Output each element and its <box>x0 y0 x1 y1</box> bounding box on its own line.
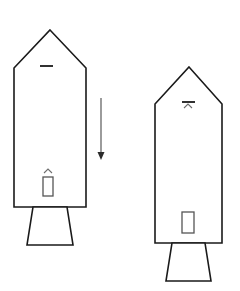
right-rocket-port[interactable] <box>182 212 194 233</box>
arrow-down-icon <box>98 152 105 160</box>
left-rocket-group[interactable] <box>14 30 86 245</box>
rocket-diagram-svg <box>0 0 240 291</box>
right-rocket-group[interactable] <box>155 67 222 281</box>
left-rocket-port[interactable] <box>43 177 53 196</box>
left-rocket-nozzle[interactable] <box>27 207 73 245</box>
diagram-canvas <box>0 0 240 291</box>
right-rocket-nozzle[interactable] <box>166 243 211 281</box>
transition-arrow <box>98 98 105 160</box>
